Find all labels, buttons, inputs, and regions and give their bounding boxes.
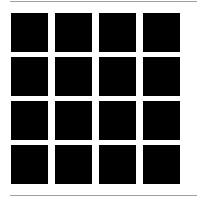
grid-square (11, 101, 48, 140)
grid-square (99, 13, 136, 52)
grid-square (99, 57, 136, 96)
grid-square (55, 57, 92, 96)
grid-square (143, 101, 180, 140)
grid-square (11, 145, 48, 184)
grid-square (55, 101, 92, 140)
grid-square (143, 57, 180, 96)
grid-square (55, 145, 92, 184)
grid-square (99, 145, 136, 184)
grid-square (11, 57, 48, 96)
grid-square (143, 13, 180, 52)
grid-square (99, 101, 136, 140)
bottom-rule (10, 195, 197, 196)
grid-square (143, 145, 180, 184)
grid-square (55, 13, 92, 52)
top-rule (10, 1, 197, 2)
square-grid (11, 13, 180, 184)
grid-square (11, 13, 48, 52)
